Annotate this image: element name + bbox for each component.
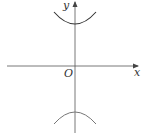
hyperbola-diagram: y x O xyxy=(0,0,141,135)
origin-label: O xyxy=(64,67,73,80)
y-axis-label: y xyxy=(62,0,70,12)
x-axis-label: x xyxy=(134,66,141,79)
